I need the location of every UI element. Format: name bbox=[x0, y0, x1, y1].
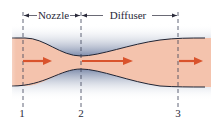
section-number-2: 2 bbox=[78, 107, 84, 119]
nozzle-diffuser-diagram: Nozzle Diffuser 1 2 3 bbox=[0, 0, 211, 123]
section-number-1: 1 bbox=[19, 107, 25, 119]
section-number-3: 3 bbox=[175, 107, 181, 119]
diffuser-label: Diffuser bbox=[110, 9, 147, 21]
left-fade bbox=[0, 20, 16, 104]
nozzle-label: Nozzle bbox=[38, 9, 69, 21]
